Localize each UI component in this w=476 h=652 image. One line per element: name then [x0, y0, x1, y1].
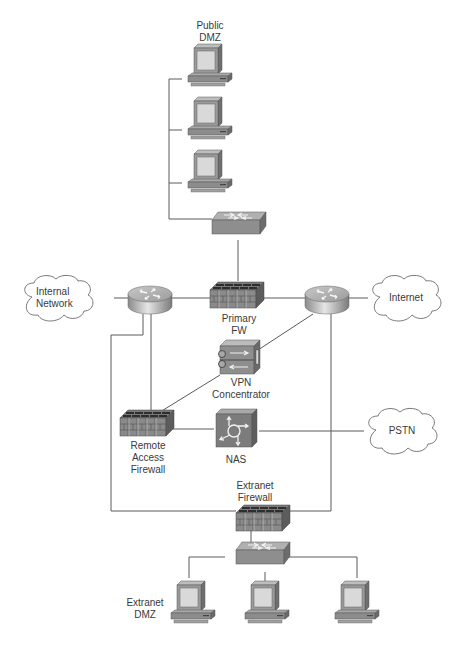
extranet-firewall-icon	[236, 505, 290, 531]
primary-fw-icon	[210, 282, 264, 308]
label-internal-network: Internal Network	[36, 286, 86, 310]
nas-icon	[216, 409, 257, 447]
label-pstn: PSTN	[382, 425, 422, 437]
public-dmz-pc-1	[188, 44, 232, 86]
label-vpn-concentrator: VPN Concentrator	[206, 377, 276, 401]
extranet-dmz-pc-3	[335, 581, 379, 623]
vpn-concentrator-icon	[219, 340, 261, 374]
label-nas: NAS	[221, 454, 251, 466]
extranet-dmz-pc-1	[171, 581, 215, 623]
label-internet: Internet	[386, 292, 426, 304]
label-extranet-firewall: Extranet Firewall	[230, 480, 280, 504]
public-dmz-pc-2	[188, 97, 232, 139]
label-remote-access-firewall: Remote Access Firewall	[118, 440, 178, 476]
remote-access-firewall-icon	[120, 410, 174, 436]
extranet-dmz-pc-2	[245, 581, 289, 623]
public-dmz-pc-3	[188, 150, 232, 192]
public-dmz-switch-icon	[212, 212, 266, 234]
internal-router-icon	[128, 286, 172, 314]
label-extranet-dmz: Extranet DMZ	[120, 597, 170, 621]
label-primary-fw: Primary FW	[217, 313, 261, 337]
internet-router-icon	[305, 286, 349, 314]
label-public-dmz: Public DMZ	[190, 20, 230, 44]
extranet-switch-icon	[236, 542, 290, 564]
